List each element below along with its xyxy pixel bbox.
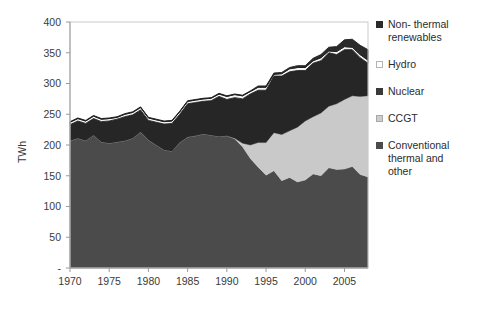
- x-tick-label: 1980: [137, 275, 161, 287]
- y-axis: -50100150200250300350400: [43, 16, 70, 274]
- legend-swatch-icon: [376, 88, 383, 95]
- y-tick-label: -: [58, 262, 62, 274]
- y-axis-title: TWh: [16, 141, 28, 163]
- y-tick-label: 200: [43, 139, 61, 151]
- y-tick-label: 100: [43, 200, 61, 212]
- legend-item-label: Nuclear: [388, 85, 424, 98]
- y-tick-label: 50: [49, 231, 61, 243]
- legend-item-label: Conventional thermal and other: [388, 139, 449, 178]
- legend-swatch-icon: [376, 21, 383, 28]
- y-tick-label: 250: [43, 108, 61, 120]
- legend-swatch-icon: [376, 61, 383, 68]
- legend-item[interactable]: Non- thermal renewables: [376, 18, 484, 44]
- y-tick-label: 400: [43, 16, 61, 28]
- x-tick-label: 2005: [333, 275, 357, 287]
- x-tick-label: 2000: [294, 275, 318, 287]
- plot-area: [70, 22, 368, 268]
- chart-screenshot: -50100150200250300350400 197019751980198…: [0, 0, 486, 311]
- legend-item-label: CCGT: [388, 112, 418, 125]
- y-tick-label: 350: [43, 47, 61, 59]
- legend-item[interactable]: Nuclear: [376, 85, 484, 98]
- legend-swatch-icon: [376, 142, 383, 149]
- x-tick-label: 1970: [58, 275, 82, 287]
- legend-swatch-icon: [376, 115, 383, 122]
- x-axis: 19701975198019851990199520002005: [58, 268, 368, 287]
- x-tick-label: 1990: [215, 275, 239, 287]
- legend-item-label: Non- thermal renewables: [388, 18, 449, 44]
- legend-item-label: Hydro: [388, 58, 416, 71]
- x-tick-label: 1995: [254, 275, 278, 287]
- x-tick-label: 1975: [98, 275, 122, 287]
- y-tick-label: 150: [43, 170, 61, 182]
- chart-legend: Non- thermal renewablesHydroNuclearCCGTC…: [376, 18, 484, 192]
- y-tick-label: 300: [43, 77, 61, 89]
- legend-item[interactable]: Hydro: [376, 58, 484, 71]
- x-tick-label: 1985: [176, 275, 200, 287]
- legend-item[interactable]: Conventional thermal and other: [376, 139, 484, 178]
- legend-item[interactable]: CCGT: [376, 112, 484, 125]
